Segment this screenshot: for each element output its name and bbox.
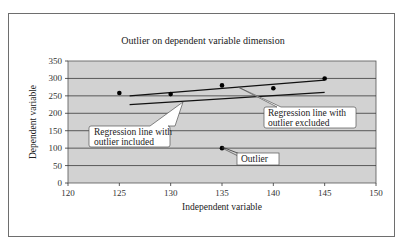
y-axis-label: Dependent variable — [28, 85, 38, 159]
data-point — [117, 91, 122, 96]
callout-included-line2: outlier included — [94, 137, 154, 147]
callout-included-line1: Regression line with — [94, 127, 172, 137]
y-tick-label: 150 — [49, 126, 63, 136]
data-point — [220, 83, 225, 88]
x-tick-label: 125 — [113, 188, 127, 198]
y-tick-label: 200 — [49, 108, 63, 118]
x-tick-label: 150 — [369, 188, 383, 198]
x-tick-label: 135 — [215, 188, 229, 198]
x-axis-ticks: 120125130135140145150 — [61, 183, 383, 198]
callout-outlier-label: Outlier — [241, 154, 269, 164]
y-axis-ticks: 050100150200250300350 — [49, 56, 69, 188]
callout-excluded-line1: Regression line with — [268, 108, 346, 118]
data-point — [322, 76, 327, 81]
y-tick-label: 0 — [58, 178, 63, 188]
y-tick-label: 300 — [49, 73, 63, 83]
y-tick-label: 50 — [53, 161, 63, 171]
y-tick-label: 100 — [49, 143, 63, 153]
x-tick-label: 130 — [164, 188, 178, 198]
data-point — [168, 92, 173, 97]
callout-excluded-line2: outlier excluded — [268, 118, 330, 128]
y-tick-label: 350 — [49, 56, 63, 66]
x-tick-label: 140 — [267, 188, 281, 198]
y-tick-label: 250 — [49, 91, 63, 101]
x-tick-label: 145 — [318, 188, 332, 198]
x-tick-label: 120 — [61, 188, 75, 198]
data-point — [271, 86, 276, 91]
chart-svg: 050100150200250300350 120125130135140145… — [0, 0, 406, 252]
x-axis-label: Independent variable — [182, 202, 262, 212]
